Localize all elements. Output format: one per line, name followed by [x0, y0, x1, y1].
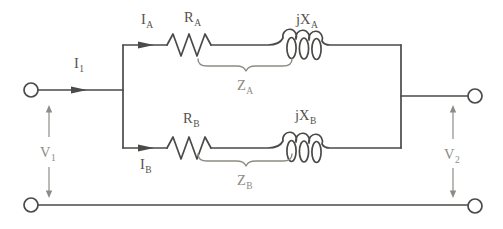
- inductor-b: [211, 132, 401, 148]
- label-impedance-b: ZB: [237, 173, 253, 191]
- impedance-b-brace: [198, 154, 292, 166]
- label-current-in: I1: [74, 56, 84, 74]
- label-voltage-in-sub: 1: [51, 153, 56, 163]
- label-voltage-in-base: V: [40, 144, 50, 160]
- label-current-a: IA: [141, 12, 153, 30]
- current-in-arrowhead: [71, 86, 87, 93]
- voltage-in-arrowhead-up: [46, 105, 52, 113]
- terminal-bottom-right: [468, 199, 482, 213]
- label-reactance-b-base: jX: [295, 107, 310, 123]
- resistor-b: [167, 137, 211, 159]
- current-a-arrowhead: [138, 41, 154, 48]
- label-impedance-a-sub: A: [246, 86, 253, 96]
- voltage-in-arrowhead-down: [46, 191, 52, 199]
- label-voltage-out-base: V: [444, 146, 454, 162]
- label-resistor-b-base: R: [183, 110, 193, 126]
- inductor-a-loop-3: [312, 39, 321, 60]
- label-reactance-a: jXA: [296, 12, 318, 30]
- inductor-b-loop-2: [299, 141, 308, 162]
- label-reactance-b-sub: B: [310, 116, 316, 126]
- label-current-in-sub: 1: [79, 64, 84, 74]
- voltage-out-arrowhead-down: [450, 191, 456, 199]
- label-current-b: IB: [140, 157, 152, 175]
- label-current-b-sub: B: [145, 165, 151, 175]
- terminal-top-left: [24, 83, 38, 97]
- terminal-top-right: [468, 89, 482, 103]
- label-voltage-in: V1: [40, 145, 56, 163]
- label-impedance-b-base: Z: [237, 172, 246, 188]
- label-impedance-a-base: Z: [237, 77, 246, 93]
- label-resistor-a-base: R: [184, 9, 194, 25]
- label-reactance-b: jXB: [295, 108, 316, 126]
- label-reactance-a-base: jX: [296, 11, 311, 27]
- label-resistor-b-sub: B: [193, 119, 199, 129]
- label-voltage-out: V2: [444, 147, 460, 165]
- inductor-a-loop-1: [287, 38, 296, 59]
- label-resistor-a: RA: [184, 10, 201, 28]
- label-resistor-a-sub: A: [194, 18, 201, 28]
- current-b-arrowhead: [138, 144, 154, 151]
- circuit-figure: I1 IA IB RA RB jXA jXB ZA ZB V1 V2: [0, 0, 503, 229]
- label-resistor-b: RB: [183, 111, 200, 129]
- label-impedance-a: ZA: [237, 78, 253, 96]
- label-voltage-out-sub: 2: [455, 155, 460, 165]
- label-reactance-a-sub: A: [311, 20, 318, 30]
- label-current-a-sub: A: [146, 20, 153, 30]
- terminal-bottom-left: [24, 198, 38, 212]
- inductor-a-loop-2: [299, 38, 308, 59]
- impedance-a-brace: [198, 59, 292, 71]
- inductor-a: [211, 29, 401, 45]
- inductor-b-loop-3: [312, 142, 321, 163]
- resistor-a: [167, 34, 211, 56]
- voltage-out-arrowhead-up: [450, 105, 456, 113]
- circuit-canvas: [0, 0, 503, 229]
- label-impedance-b-sub: B: [246, 181, 252, 191]
